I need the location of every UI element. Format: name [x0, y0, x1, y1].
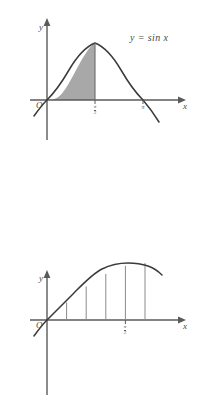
y-axis-label-top: y — [39, 22, 43, 32]
figure-sine-riemann-partitions: y = sin x y x O π 2 — [0, 255, 206, 407]
equation-label-top: y = sin x — [130, 32, 168, 43]
tick-label-pi-over-2-bottom: π 2 — [119, 325, 131, 336]
x-axis-label-top: x — [183, 101, 187, 111]
fraction-pi-over-2-bottom: π 2 — [124, 325, 127, 336]
y-axis-arrow-icon — [44, 18, 51, 26]
origin-label-top: O — [36, 100, 43, 110]
fraction-denominator: 2 — [94, 110, 97, 116]
sine-curve-bottom — [34, 263, 162, 336]
fraction-denominator: 2 — [124, 330, 127, 336]
x-axis-label-bottom: x — [183, 321, 187, 331]
sine-shaded-area-svg — [0, 0, 206, 150]
tick-label-pi-top: π — [138, 104, 148, 110]
sine-partitions-svg — [0, 255, 206, 407]
y-axis-label-bottom: y — [39, 273, 43, 283]
y-axis-arrow-icon-bottom — [44, 270, 51, 278]
tick-label-pi-over-2-top: π 2 — [89, 105, 101, 116]
fraction-pi-over-2-top: π 2 — [94, 105, 97, 116]
figure-sine-shaded-area: y = sin x y x O π 2 π — [0, 0, 206, 150]
origin-label-bottom: O — [36, 320, 43, 330]
